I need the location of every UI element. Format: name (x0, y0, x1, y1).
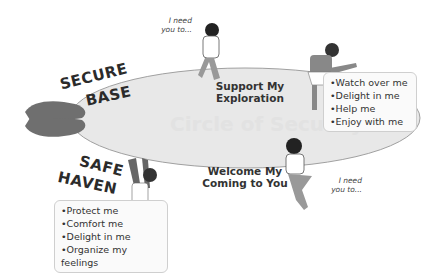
exploration-needs-box: Watch over me Delight in me Help me Enjo… (323, 72, 417, 132)
list-item: Comfort me (61, 217, 161, 230)
top-label-line-2: Exploration (210, 92, 290, 104)
top-label-line-1: Support My (210, 80, 290, 92)
i-need-top-line-2: you to... (152, 25, 192, 34)
i-need-bottom-line-1: I need (322, 176, 362, 185)
list-item: Help me (330, 102, 410, 115)
i-need-top-line-1: I need (152, 16, 192, 25)
list-item: Enjoy with me (330, 115, 410, 128)
bottom-label-line-1: Welcome My (200, 165, 290, 177)
welcome-coming-label: Welcome My Coming to You (200, 165, 290, 189)
i-need-top: I need you to... (152, 16, 192, 34)
list-item: Watch over me (330, 76, 410, 89)
bottom-label-line-2: Coming to You (200, 177, 290, 189)
list-item: Delight in me (330, 89, 410, 102)
i-need-bottom: I need you to... (322, 176, 362, 194)
list-item: Protect me (61, 204, 161, 217)
haven-needs-box: Protect me Comfort me Delight in me Orga… (54, 200, 168, 273)
support-exploration-label: Support My Exploration (210, 80, 290, 104)
i-need-bottom-line-2: you to... (322, 185, 362, 194)
list-item: Delight in me (61, 230, 161, 243)
list-item: Organize my feelings (61, 243, 161, 269)
